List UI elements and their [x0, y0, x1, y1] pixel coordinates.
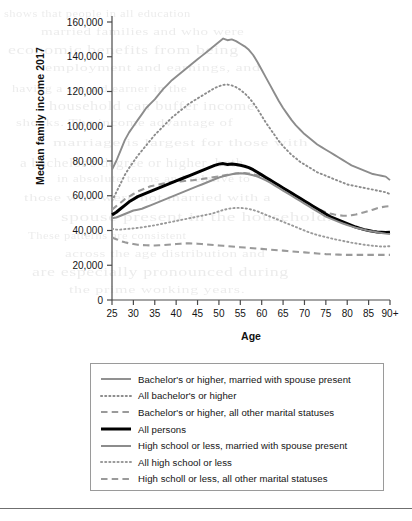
- x-tick-label: 60: [256, 308, 268, 319]
- y-tick-label: 120,000: [67, 86, 104, 97]
- line-chart: 020,00040,00060,00080,000100,000120,0001…: [0, 0, 412, 350]
- legend-item-label: All persons: [138, 424, 186, 435]
- legend-item-label: High school or less, married with spouse…: [138, 440, 347, 451]
- y-tick-label: 20,000: [72, 260, 103, 271]
- y-axis-label: Median family income 2017: [34, 6, 46, 226]
- series-line: [112, 237, 390, 254]
- x-tick-label: 65: [278, 308, 290, 319]
- y-tick-label: 160,000: [67, 17, 104, 28]
- legend-item-label: Bachelor's or higher, married with spous…: [138, 374, 351, 385]
- legend-item: All bachelor's or higher: [91, 388, 383, 405]
- legend-item: Bachelor's or higher, all other marital …: [91, 404, 383, 421]
- y-tick-label: 140,000: [67, 51, 104, 62]
- x-tick-label: 50: [213, 308, 225, 319]
- legend-item: High scholl or less, all other marital s…: [91, 471, 383, 488]
- y-tick-label: 80,000: [72, 156, 103, 167]
- y-tick-label: 100,000: [67, 121, 104, 132]
- legend-line-swatch: [100, 440, 132, 452]
- legend-line-swatch: [100, 373, 132, 385]
- footer-divider: [0, 508, 412, 509]
- series-line: [112, 39, 390, 181]
- series-line: [112, 85, 390, 201]
- x-tick-label: 85: [363, 308, 375, 319]
- x-tick-label: 40: [171, 308, 183, 319]
- plot-area: 020,00040,00060,00080,000100,000120,0001…: [0, 0, 412, 350]
- legend-item-label: Bachelor's or higher, all other marital …: [138, 407, 334, 418]
- legend-line-swatch: [100, 456, 132, 468]
- x-tick-label: 30: [128, 308, 140, 319]
- y-tick-label: 40,000: [72, 225, 103, 236]
- legend-line-swatch: [100, 423, 132, 435]
- chart-legend: Bachelor's or higher, married with spous…: [90, 363, 384, 491]
- x-tick-label: 35: [149, 308, 161, 319]
- x-tick-label: 45: [192, 308, 204, 319]
- legend-item-label: High scholl or less, all other marital s…: [138, 473, 328, 484]
- x-tick-label: 90+: [382, 308, 399, 319]
- legend-line-swatch: [100, 473, 132, 485]
- legend-item: All high school or less: [91, 454, 383, 471]
- figure: 020,00040,00060,00080,000100,000120,0001…: [0, 0, 412, 521]
- legend-line-swatch: [100, 406, 132, 418]
- legend-item: High school or less, married with spouse…: [91, 437, 383, 454]
- legend-item-label: All bachelor's or higher: [138, 390, 237, 401]
- y-tick-label: 60,000: [72, 190, 103, 201]
- x-tick-label: 25: [106, 308, 118, 319]
- x-tick-label: 70: [299, 308, 311, 319]
- series-line: [112, 208, 390, 247]
- x-tick-label: 80: [342, 308, 354, 319]
- x-tick-label: 55: [235, 308, 247, 319]
- legend-item: Bachelor's or higher, married with spous…: [91, 371, 383, 388]
- y-tick-label: 0: [97, 295, 103, 306]
- legend-line-swatch: [100, 390, 132, 402]
- x-axis-label: Age: [112, 330, 390, 342]
- legend-item-label: All high school or less: [138, 457, 232, 468]
- x-tick-label: 75: [320, 308, 332, 319]
- legend-item: All persons: [91, 421, 383, 438]
